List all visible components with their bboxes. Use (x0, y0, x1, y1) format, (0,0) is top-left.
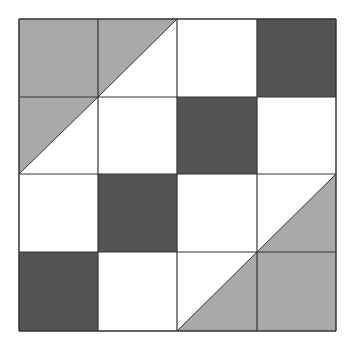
quilt-cell-r1-c2 (177, 97, 257, 174)
quilt-cell-r0-c2 (177, 19, 257, 97)
quilt-cell-r3-c0 (19, 252, 98, 331)
quilt-cell-r0-c0 (19, 19, 98, 97)
quilt-cell-r2-c1 (98, 174, 177, 252)
quilt-cell-r3-c2 (177, 252, 257, 331)
quilt-block-diagram (0, 0, 357, 353)
quilt-cell-r2-c2 (177, 174, 257, 252)
quilt-cell-r0-c1 (98, 19, 177, 97)
quilt-cell-r0-c3 (257, 19, 336, 97)
quilt-cell-r1-c1 (98, 97, 177, 174)
quilt-cell-r3-c3 (257, 252, 336, 331)
quilt-cell-r2-c3 (257, 174, 336, 252)
quilt-cell-r1-c3 (257, 97, 336, 174)
quilt-cell-r2-c0 (19, 174, 98, 252)
quilt-cell-r3-c1 (98, 252, 177, 331)
quilt-cell-r1-c0 (19, 97, 98, 174)
